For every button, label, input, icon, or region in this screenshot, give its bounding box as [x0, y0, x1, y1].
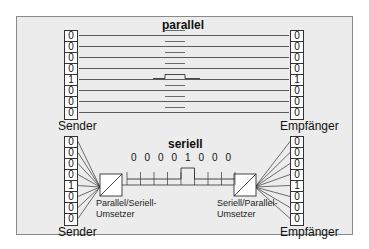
- converter-right-line1: Seriell/Parallel-: [217, 198, 278, 209]
- converter-label-right: Seriell/Parallel- Umsetzer: [217, 198, 278, 220]
- sender-label-serial: Sender: [58, 225, 97, 239]
- serial-stream-bit-5: 0: [195, 152, 207, 163]
- sender-label-parallel: Sender: [58, 119, 97, 133]
- converter-label-left: Parallel/Seriell- Umsetzer: [96, 198, 157, 220]
- parallel-receiver-bit-7: 0: [291, 108, 303, 119]
- serial-stream-bit-6: 0: [209, 152, 221, 163]
- sender-register-parallel: 00001000: [64, 30, 78, 120]
- receiver-label-parallel: Empfänger: [280, 119, 339, 133]
- receiver-label-serial: Empfänger: [280, 225, 339, 239]
- serial-title: seriell: [168, 137, 203, 151]
- serial-stream-bit-4: 1: [182, 152, 194, 163]
- sender-register-serial: 00001000: [64, 136, 78, 226]
- serial-receiver-bit-7: 0: [291, 214, 303, 225]
- parallel-sender-bit-7: 0: [65, 108, 77, 119]
- serial-stream-bit-7: 0: [222, 152, 234, 163]
- parallel-title: parallel: [162, 18, 204, 32]
- converter-right-line2: Umsetzer: [217, 209, 278, 220]
- converter-left-line2: Umsetzer: [96, 209, 157, 220]
- serial-sender-bit-7: 0: [65, 214, 77, 225]
- converter-left-line1: Parallel/Seriell-: [96, 198, 157, 209]
- receiver-register-serial: 00001000: [290, 136, 304, 226]
- serial-stream-bit-0: 0: [128, 152, 140, 163]
- serial-stream-bit-1: 0: [141, 152, 153, 163]
- receiver-register-parallel: 00001000: [290, 30, 304, 120]
- serial-stream-bit-3: 0: [168, 152, 180, 163]
- serial-stream-bit-2: 0: [155, 152, 167, 163]
